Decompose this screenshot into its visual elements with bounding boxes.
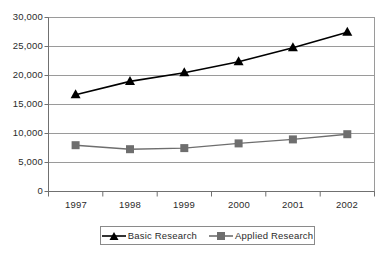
legend-label: Basic Research: [128, 230, 197, 241]
x-axis-tick-label: 1999: [158, 199, 210, 210]
square-marker-icon: [209, 231, 233, 241]
line-chart: 30,000 25,000 20,000 15,000 10,000 5,000…: [0, 0, 388, 255]
legend-item-basic-research: Basic Research: [102, 230, 197, 241]
chart-legend: Basic Research Applied Research: [100, 226, 315, 245]
x-axis-tick-label: 2001: [267, 199, 319, 210]
legend-item-applied-research: Applied Research: [209, 230, 313, 241]
x-axis-tick-label: 2000: [213, 199, 265, 210]
triangle-marker-icon: [102, 231, 126, 241]
y-axis: [45, 18, 49, 192]
plot-area: [0, 0, 388, 255]
x-axis-tick-label: 1997: [50, 199, 102, 210]
x-axis-tick-label: 2002: [321, 199, 373, 210]
x-axis: [49, 192, 375, 197]
x-axis-tick-label: 1998: [104, 199, 156, 210]
legend-label: Applied Research: [235, 230, 313, 241]
